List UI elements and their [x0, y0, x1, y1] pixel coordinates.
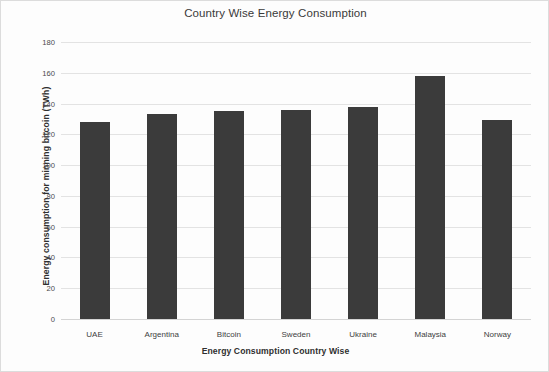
x-axis-tick-label: UAE	[86, 330, 102, 339]
bar-series	[61, 42, 531, 319]
x-axis-tick-label: Argentina	[145, 330, 179, 339]
x-tick-slot: Ukraine	[330, 323, 397, 341]
x-tick-slot: UAE	[61, 323, 128, 341]
y-axis-tick-label: 0	[9, 315, 55, 324]
y-axis-tick-labels: 180160140120100806040200	[7, 42, 55, 319]
bar[interactable]	[214, 111, 244, 319]
chart-title: Country Wise Energy Consumption	[1, 7, 549, 19]
y-axis-tick-label: 40	[9, 253, 55, 262]
x-tick-slot: Sweden	[262, 323, 329, 341]
bar[interactable]	[147, 114, 177, 319]
bar[interactable]	[482, 120, 512, 319]
y-axis-tick-label: 140	[9, 99, 55, 108]
y-axis-tick-label: 80	[9, 191, 55, 200]
bar-slot	[262, 42, 329, 319]
bar-slot	[464, 42, 531, 319]
bar[interactable]	[348, 107, 378, 319]
bar-slot	[128, 42, 195, 319]
bar-slot	[397, 42, 464, 319]
x-axis-tick-label: Norway	[484, 330, 511, 339]
gridline	[61, 319, 531, 320]
bar[interactable]	[281, 110, 311, 319]
bar[interactable]	[415, 76, 445, 319]
x-axis-title: Energy Consumption Country Wise	[1, 346, 549, 356]
x-axis-tick-label: Malaysia	[414, 330, 446, 339]
x-tick-slot: Norway	[464, 323, 531, 341]
x-axis-tick-labels: UAEArgentinaBitcoinSwedenUkraineMalaysia…	[61, 323, 531, 341]
bar-slot	[195, 42, 262, 319]
y-axis-tick-label: 120	[9, 130, 55, 139]
y-axis-tick-label: 160	[9, 68, 55, 77]
y-axis-tick-label: 100	[9, 161, 55, 170]
x-axis-tick-label: Sweden	[282, 330, 311, 339]
chart-container: Country Wise Energy Consumption Energy c…	[0, 0, 549, 372]
x-tick-slot: Malaysia	[397, 323, 464, 341]
x-tick-slot: Bitcoin	[195, 323, 262, 341]
y-axis-tick-label: 180	[9, 38, 55, 47]
bar-slot	[330, 42, 397, 319]
y-axis-tick-label: 20	[9, 284, 55, 293]
x-axis-tick-label: Ukraine	[349, 330, 377, 339]
x-axis-tick-label: Bitcoin	[217, 330, 241, 339]
bar-slot	[61, 42, 128, 319]
y-axis-tick-label: 60	[9, 222, 55, 231]
x-tick-slot: Argentina	[128, 323, 195, 341]
bar[interactable]	[80, 122, 110, 319]
